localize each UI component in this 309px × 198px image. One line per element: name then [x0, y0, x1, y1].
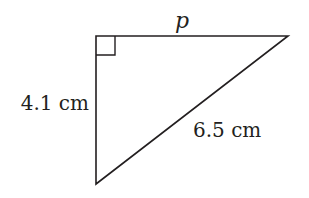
right-triangle-diagram: p 4.1 cm 6.5 cm: [0, 0, 309, 198]
triangle: [96, 36, 288, 184]
hypotenuse-label: 6.5 cm: [193, 118, 261, 142]
left-side-label: 4.1 cm: [21, 91, 89, 115]
right-angle-marker: [96, 36, 115, 55]
top-side-label: p: [175, 8, 189, 33]
